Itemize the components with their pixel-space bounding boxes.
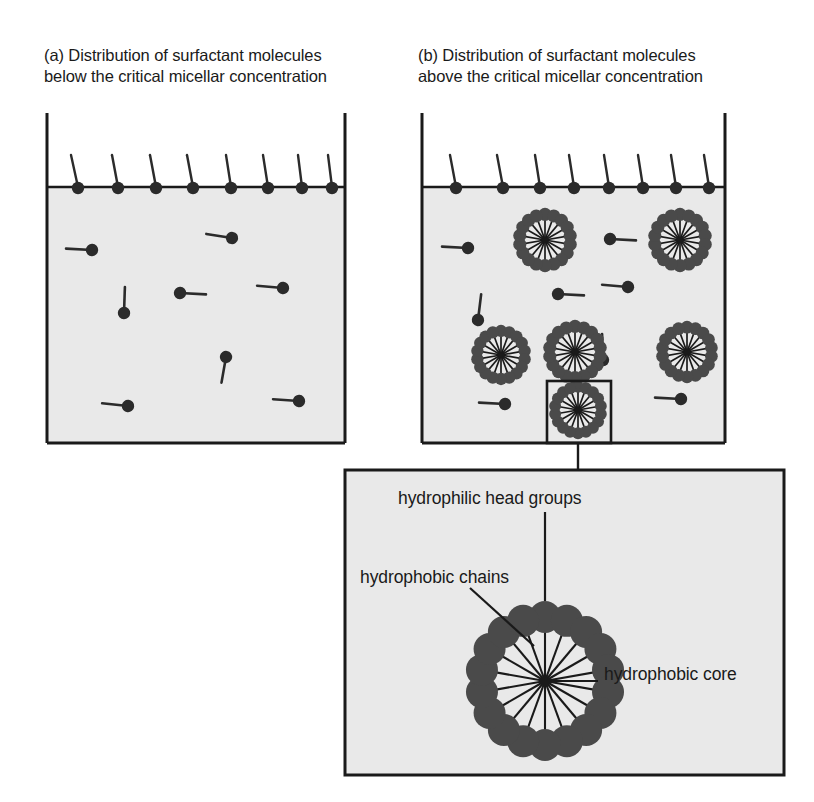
label-hydrophobic-core: hydrophobic core <box>604 664 737 685</box>
micelle-head-group <box>564 382 576 394</box>
micelle <box>648 208 712 272</box>
label-hydrophobic-chains: hydrophobic chains <box>360 567 509 588</box>
label-hydrophilic-head-groups: hydrophilic head groups <box>398 488 582 509</box>
panel-b <box>422 113 725 443</box>
micelle-head-group <box>665 209 678 222</box>
micelle-head-group <box>487 326 499 338</box>
figure-canvas: (a) Distribution of surfactant molecules… <box>0 0 814 802</box>
micelle-head-group <box>530 209 543 222</box>
micelle-head-group <box>560 321 573 334</box>
micelle-core <box>677 237 683 243</box>
micelle-core <box>575 407 581 413</box>
micelle <box>656 321 718 383</box>
micelle-core <box>498 352 504 358</box>
micelle <box>549 381 607 439</box>
panel-a <box>47 113 345 443</box>
micelle <box>471 325 531 385</box>
micelle-core <box>542 237 548 243</box>
micelle-head-group <box>507 605 539 637</box>
panel-a-caption: (a) Distribution of surfactant molecules… <box>44 45 394 87</box>
micelle-head-group <box>672 322 685 335</box>
micelle-core <box>684 349 690 355</box>
micelle <box>513 208 577 272</box>
micelle-core <box>572 349 578 355</box>
panel-b-caption: (b) Distribution of surfactant molecules… <box>418 45 770 87</box>
micelle <box>543 320 607 384</box>
detail-panel <box>345 470 784 775</box>
